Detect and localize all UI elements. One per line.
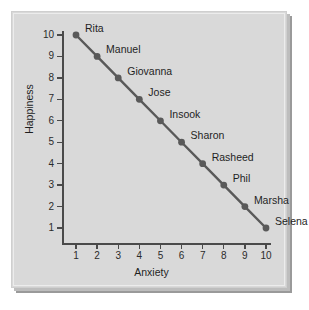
data-point-label: Marsha <box>254 194 289 206</box>
data-series <box>0 0 303 310</box>
y-axis-label-text: Happiness <box>23 84 35 134</box>
data-point-label: Manuel <box>106 43 140 55</box>
data-point <box>199 160 206 167</box>
scatter-plot: 12345678910 12345678910 RitaManuelGiovan… <box>0 0 303 310</box>
data-point-label: Rita <box>85 22 104 34</box>
data-point-label: Rasheed <box>212 151 254 163</box>
data-point <box>263 225 270 232</box>
data-point <box>73 32 80 39</box>
data-point-label: Giovanna <box>127 65 172 77</box>
data-point-label: Jose <box>148 86 170 98</box>
data-point-label: Phil <box>233 172 251 184</box>
data-point <box>94 53 101 60</box>
data-point <box>241 203 248 210</box>
data-point <box>157 117 164 124</box>
data-point <box>115 74 122 81</box>
x-axis-label: Anxiety <box>0 266 303 278</box>
data-point-label: Insook <box>169 108 200 120</box>
data-point-label: Selena <box>275 215 303 227</box>
data-point <box>178 139 185 146</box>
data-point-label: Sharon <box>191 129 225 141</box>
figure: 12345678910 12345678910 RitaManuelGiovan… <box>0 0 303 310</box>
y-axis-label: Happiness <box>19 59 37 159</box>
data-point <box>220 182 227 189</box>
data-point <box>136 96 143 103</box>
